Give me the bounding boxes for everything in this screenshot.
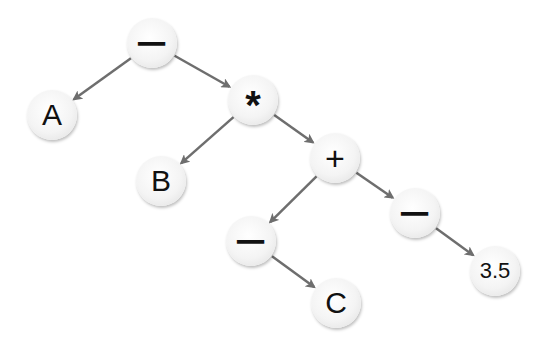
node-leaf-number: 3.5 xyxy=(470,246,520,296)
node-minus-left: − xyxy=(226,216,276,266)
node-label: A xyxy=(42,100,62,130)
node-leaf-c: C xyxy=(311,278,361,328)
node-root-minus: − xyxy=(127,18,177,68)
node-label: − xyxy=(136,26,168,60)
edge-arrow xyxy=(356,173,392,198)
edge-arrow xyxy=(181,117,233,163)
node-label: 3.5 xyxy=(480,260,511,282)
edge-arrow xyxy=(175,56,230,87)
edge-arrow xyxy=(74,58,131,99)
node-label: − xyxy=(399,196,431,230)
node-label: B xyxy=(151,166,171,196)
edge-arrow xyxy=(270,176,316,222)
node-label: + xyxy=(325,141,345,175)
node-plus: + xyxy=(310,133,360,183)
node-multiply: * xyxy=(228,75,278,125)
node-label: C xyxy=(325,288,347,318)
edge-arrow xyxy=(436,228,473,255)
node-label: − xyxy=(235,224,267,258)
tree-edges xyxy=(0,0,546,349)
edge-arrow xyxy=(274,115,313,142)
node-leaf-a: A xyxy=(27,90,77,140)
node-label: * xyxy=(245,85,261,125)
edge-arrow xyxy=(272,256,314,287)
node-minus-right: − xyxy=(390,188,440,238)
node-leaf-b: B xyxy=(136,156,186,206)
